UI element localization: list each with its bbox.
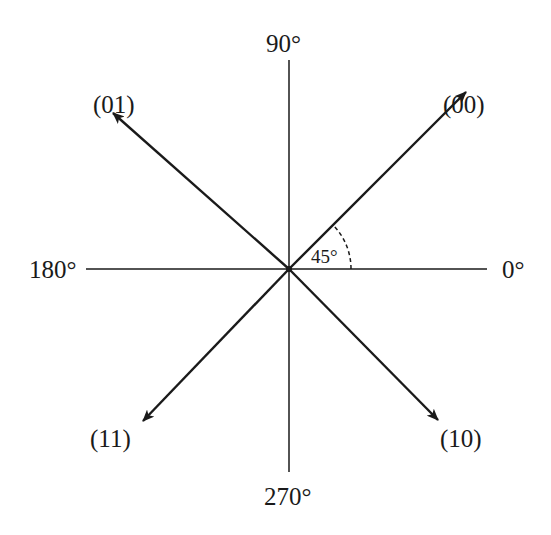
label-180-deg: 180° — [29, 257, 77, 282]
label-angle-45: 45° — [311, 247, 338, 266]
vector-11-arrow — [143, 269, 289, 421]
label-0-deg: 0° — [502, 257, 525, 282]
label-vector-11: (11) — [90, 426, 131, 451]
label-270-deg: 270° — [264, 484, 312, 509]
vector-01-arrow — [113, 113, 289, 269]
origin-point — [286, 266, 292, 272]
label-90-deg: 90° — [266, 31, 301, 56]
constellation-diagram — [0, 0, 551, 535]
label-vector-00: (00) — [443, 92, 485, 117]
label-vector-01: (01) — [93, 92, 135, 117]
label-vector-10: (10) — [440, 426, 482, 451]
vector-00-arrow — [289, 92, 466, 269]
vector-10-arrow — [289, 269, 438, 420]
